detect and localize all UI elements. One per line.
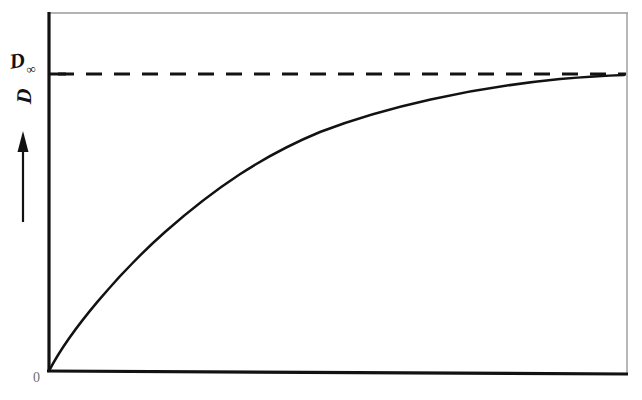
asymptote-label-letter: D xyxy=(8,48,27,74)
origin-label: 0 xyxy=(33,370,40,386)
up-arrow-icon xyxy=(18,131,29,152)
x-axis-line xyxy=(47,371,628,374)
data-curve xyxy=(49,75,624,371)
asymptote-label: D∞ xyxy=(8,48,36,76)
figure-container: D∞ D 0 xyxy=(0,0,642,400)
plot-canvas xyxy=(0,0,642,400)
y-axis-label: D xyxy=(14,88,35,105)
